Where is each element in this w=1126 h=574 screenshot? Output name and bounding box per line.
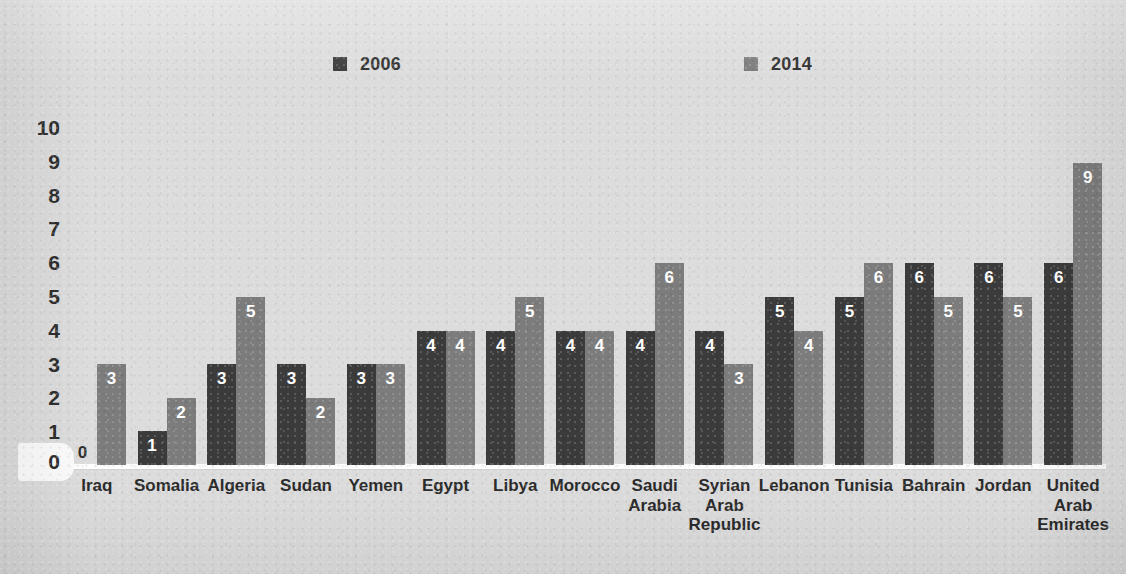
bar-pair: 43 bbox=[690, 125, 760, 465]
legend-swatch-2006 bbox=[333, 57, 347, 71]
bar-2014-united-arab-emirates: 9 bbox=[1073, 163, 1102, 465]
bar-value-label: 6 bbox=[655, 269, 684, 286]
bar-2014-iraq: 3 bbox=[97, 364, 126, 465]
legend-entry-2014: 2014 bbox=[744, 55, 812, 73]
y-axis-tick-7: 7 bbox=[18, 218, 60, 239]
bar-value-label: 5 bbox=[765, 303, 794, 320]
bar-2006-iraq: 0 bbox=[68, 464, 97, 465]
bar-value-label: 4 bbox=[585, 337, 614, 354]
bar-2006-morocco: 4 bbox=[556, 331, 585, 465]
bar-value-label: 5 bbox=[1003, 303, 1032, 320]
bar-pair: 35 bbox=[201, 125, 271, 465]
bar-value-label: 1 bbox=[138, 437, 167, 454]
category-label-line: Arab bbox=[1024, 496, 1122, 516]
y-axis: 10987654321 bbox=[18, 127, 60, 465]
bar-2014-egypt: 4 bbox=[446, 331, 475, 465]
bar-2006-bahrain: 6 bbox=[905, 263, 934, 465]
bar-value-label: 4 bbox=[446, 337, 475, 354]
legend-swatch-2014 bbox=[744, 57, 758, 71]
bar-pair: 54 bbox=[759, 125, 829, 465]
bar-value-label: 3 bbox=[207, 370, 236, 387]
bar-value-label: 5 bbox=[934, 303, 963, 320]
category-label-line: United bbox=[1024, 476, 1122, 496]
bar-value-label: 3 bbox=[97, 370, 126, 387]
bar-pair: 65 bbox=[899, 125, 969, 465]
y-axis-tick-5: 5 bbox=[18, 286, 60, 307]
bar-pair: 03 bbox=[62, 125, 132, 465]
bar-pair: 69 bbox=[1038, 125, 1108, 465]
bar-value-label: 5 bbox=[515, 303, 544, 320]
bar-value-label: 4 bbox=[794, 337, 823, 354]
bar-value-label: 2 bbox=[167, 404, 196, 421]
bar-2006-somalia: 1 bbox=[138, 431, 167, 465]
bar-2006-algeria: 3 bbox=[207, 364, 236, 465]
bar-pair: 12 bbox=[132, 125, 202, 465]
bar-value-label: 6 bbox=[1044, 269, 1073, 286]
bar-2006-libya: 4 bbox=[486, 331, 515, 465]
bar-value-label: 6 bbox=[864, 269, 893, 286]
bar-2014-lebanon: 4 bbox=[794, 331, 823, 465]
y-axis-tick-9: 9 bbox=[18, 150, 60, 171]
bar-2006-saudi-arabia: 4 bbox=[626, 331, 655, 465]
bar-2014-saudi-arabia: 6 bbox=[655, 263, 684, 465]
bar-2006-egypt: 4 bbox=[417, 331, 446, 465]
bar-pair: 46 bbox=[620, 125, 690, 465]
bar-pair: 45 bbox=[480, 125, 550, 465]
legend-label-2014: 2014 bbox=[771, 55, 812, 73]
chart-legend: 2006 2014 bbox=[0, 0, 1126, 110]
bar-value-label: 6 bbox=[974, 269, 1003, 286]
bar-pair: 32 bbox=[271, 125, 341, 465]
bar-value-label: 4 bbox=[417, 337, 446, 354]
bar-2014-libya: 5 bbox=[515, 297, 544, 465]
bar-value-label: 5 bbox=[236, 303, 265, 320]
bar-value-label: 0 bbox=[68, 444, 97, 461]
bar-pair: 44 bbox=[550, 125, 620, 465]
bar-2006-united-arab-emirates: 6 bbox=[1044, 263, 1073, 465]
bar-2006-lebanon: 5 bbox=[765, 297, 794, 465]
bar-value-label: 6 bbox=[905, 269, 934, 286]
bar-2014-morocco: 4 bbox=[585, 331, 614, 465]
y-axis-tick-3: 3 bbox=[18, 353, 60, 374]
bar-value-label: 3 bbox=[277, 370, 306, 387]
bar-2014-sudan: 2 bbox=[306, 398, 335, 465]
bar-value-label: 3 bbox=[376, 370, 405, 387]
bar-value-label: 4 bbox=[626, 337, 655, 354]
bar-2014-somalia: 2 bbox=[167, 398, 196, 465]
y-axis-tick-10: 10 bbox=[18, 117, 60, 138]
bar-2006-sudan: 3 bbox=[277, 364, 306, 465]
legend-entry-2006: 2006 bbox=[333, 55, 401, 73]
bar-2006-jordan: 6 bbox=[974, 263, 1003, 465]
bar-value-label: 3 bbox=[347, 370, 376, 387]
y-axis-tick-0: 0 bbox=[18, 451, 60, 472]
bar-pair: 33 bbox=[341, 125, 411, 465]
bar-2006-tunisia: 5 bbox=[835, 297, 864, 465]
bar-2014-algeria: 5 bbox=[236, 297, 265, 465]
y-axis-tick-2: 2 bbox=[18, 387, 60, 408]
bar-value-label: 5 bbox=[835, 303, 864, 320]
bar-value-label: 4 bbox=[486, 337, 515, 354]
bar-2014-tunisia: 6 bbox=[864, 263, 893, 465]
bar-2006-yemen: 3 bbox=[347, 364, 376, 465]
bar-value-label: 3 bbox=[724, 370, 753, 387]
bar-value-label: 2 bbox=[306, 404, 335, 421]
bar-2014-jordan: 5 bbox=[1003, 297, 1032, 465]
y-axis-tick-4: 4 bbox=[18, 319, 60, 340]
bar-value-label: 4 bbox=[556, 337, 585, 354]
bar-2006-syrian-arab-republic: 4 bbox=[695, 331, 724, 465]
y-axis-tick-6: 6 bbox=[18, 252, 60, 273]
bar-pair: 65 bbox=[969, 125, 1039, 465]
category-label-united-arab-emirates: UnitedArabEmirates bbox=[1024, 476, 1122, 535]
bar-2014-syrian-arab-republic: 3 bbox=[724, 364, 753, 465]
bar-value-label: 4 bbox=[695, 337, 724, 354]
bar-pair: 56 bbox=[829, 125, 899, 465]
bar-2014-yemen: 3 bbox=[376, 364, 405, 465]
y-axis-tick-8: 8 bbox=[18, 184, 60, 205]
y-axis-tick-1: 1 bbox=[18, 421, 60, 442]
category-label-line: Emirates bbox=[1024, 515, 1122, 535]
bar-pair: 44 bbox=[411, 125, 481, 465]
bar-value-label: 9 bbox=[1073, 169, 1102, 186]
legend-label-2006: 2006 bbox=[360, 55, 401, 73]
bar-2014-bahrain: 5 bbox=[934, 297, 963, 465]
